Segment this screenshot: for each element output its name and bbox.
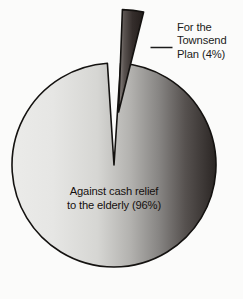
pie-chart-figure: For the Townsend Plan (4%) Against cash …	[0, 0, 243, 299]
callout-line-3: Plan (4%)	[177, 48, 243, 61]
slice-label-line-1: Against cash relief	[36, 184, 192, 198]
callout-line-1: For the	[177, 21, 243, 34]
pie-slice-against-cash-relief	[12, 63, 216, 267]
slice-callout-label-townsend: For the Townsend Plan (4%)	[177, 21, 243, 61]
slice-inner-label-against-cash-relief: Against cash relief to the elderly (96%)	[36, 184, 192, 212]
callout-line-2: Townsend	[177, 34, 243, 47]
slice-label-line-2: to the elderly (96%)	[36, 198, 192, 212]
